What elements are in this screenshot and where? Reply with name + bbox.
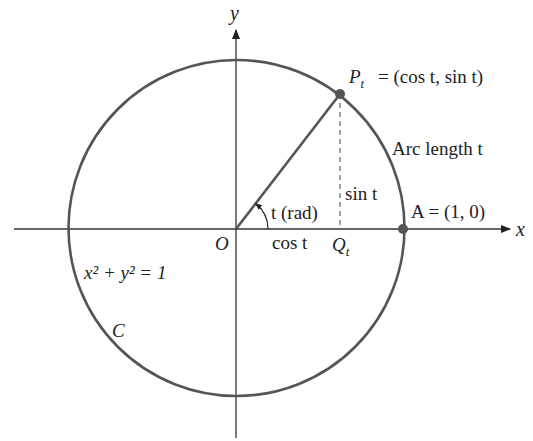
y-axis-label: y [228, 2, 239, 25]
sin-label: sin t [345, 183, 378, 204]
point-p-coords: = (cos t, sin t) [378, 66, 483, 88]
x-axis-label: x [515, 218, 525, 240]
point-q-label: Qt [332, 234, 350, 259]
angle-arc-icon [256, 204, 268, 229]
cos-label: cos t [272, 232, 308, 253]
circle-equation-label: x² + y² = 1 [83, 262, 166, 283]
point-a [398, 224, 408, 234]
curve-c-label: C [112, 320, 125, 341]
point-p-label: Pt [348, 66, 365, 91]
angle-label: t (rad) [271, 202, 318, 224]
point-a-label: A = (1, 0) [411, 201, 485, 223]
origin-label: O [215, 233, 229, 254]
arc-length-label: Arc length t [392, 138, 483, 159]
point-p [335, 89, 345, 99]
unit-circle-diagram: y x O Pt = (cos t, sin t) Arc length t s… [0, 0, 533, 441]
